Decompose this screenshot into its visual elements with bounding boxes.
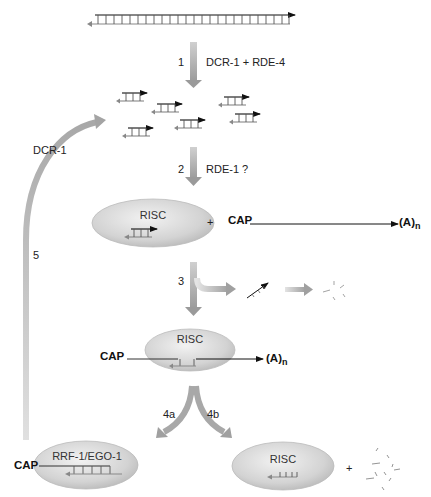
- risc-bottom-label: RISC: [260, 454, 306, 465]
- step-5-label: DCR-1: [33, 145, 67, 156]
- step-4b-number: 4b: [207, 409, 219, 420]
- plus-sign-2: +: [346, 463, 352, 474]
- step-3-number: 3: [178, 276, 184, 287]
- step-1-number: 1: [178, 57, 184, 68]
- step-2-arrow-icon: [185, 147, 202, 186]
- step-3-arrow-icon: [185, 262, 236, 316]
- rrf-ego-label: RRF-1/EGO-1: [46, 451, 128, 462]
- risc-top-label: RISC: [130, 210, 176, 221]
- released-strand-icon: [247, 283, 268, 298]
- cap-label-3: CAP: [14, 460, 38, 472]
- risc-complex-bottom: [232, 442, 334, 490]
- step-4a-number: 4a: [163, 409, 175, 420]
- polya-label-1: (A)n: [399, 217, 420, 231]
- rrf-ego-complex: [34, 441, 138, 489]
- step-5-recycle-arrow-icon: [26, 114, 106, 440]
- cap-label-2: CAP: [100, 351, 124, 363]
- step-2-label: RDE-1 ?: [206, 164, 248, 175]
- plus-sign-1: +: [207, 217, 213, 228]
- step-2-number: 2: [178, 164, 184, 175]
- fragments-icon: [323, 281, 345, 300]
- degraded-fragments-icon: [366, 448, 400, 490]
- long-dsrna-icon: [87, 15, 295, 27]
- risc-middle-label: RISC: [167, 334, 213, 345]
- step-1-label: DCR-1 + RDE-4: [206, 57, 285, 68]
- step-1-arrow-icon: [185, 42, 202, 88]
- rnai-diagram-canvas: [0, 0, 431, 497]
- risc-complex-loaded: [92, 199, 214, 247]
- degradation-arrow-icon: [285, 283, 313, 296]
- polya-label-2: (A)n: [266, 353, 287, 367]
- sirna-duplexes-icon: [116, 93, 260, 139]
- step-5-number: 5: [33, 250, 39, 261]
- cap-label-1: CAP: [228, 215, 252, 227]
